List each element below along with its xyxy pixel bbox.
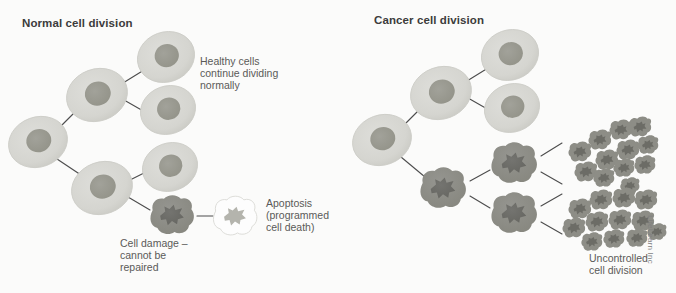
- connector-cancer-cancer-upper-to-cluster-b: [541, 172, 562, 184]
- cell-cancer-daughter-lower: [420, 167, 466, 208]
- cell-normal-apoptotic-cell: [213, 196, 256, 235]
- connector-cancer-parent-to-lower: [401, 157, 425, 177]
- cell-division-diagram: Normal cell division Cancer cell divisio…: [0, 0, 676, 293]
- diagram-canvas: [0, 0, 676, 293]
- caption-cell-damage: Cell damage – cannot be repaired: [120, 238, 188, 273]
- cell-cancer-cancer-cell-lower: [491, 192, 537, 233]
- cluster-upper-cell-6: [616, 140, 639, 160]
- cluster-lower-cell-6: [608, 210, 631, 230]
- caption-apoptosis: Apoptosis (programmed cell death): [266, 198, 329, 233]
- cell-normal-grandchild-1: [130, 24, 202, 91]
- connector-cancer-lower-to-cancer-lower: [470, 196, 490, 208]
- cluster-lower-cell-10: [626, 228, 647, 246]
- cluster-upper-cell-8: [593, 168, 614, 186]
- cluster-lower-cell-3: [634, 190, 657, 210]
- cluster-upper-cell-7: [637, 135, 658, 153]
- connector-cancer-cancer-upper-to-cluster-a: [541, 143, 562, 156]
- cluster-lower-cell-1: [589, 190, 612, 210]
- cell-normal-grandchild-2: [133, 78, 202, 142]
- cluster-lower-cell-2: [612, 188, 635, 208]
- cell-normal-grandchild-3: [135, 135, 204, 199]
- cluster-lower-cell-8: [581, 232, 602, 250]
- cluster-upper-cell-9: [613, 158, 634, 176]
- cell-normal-parent-cell: [1, 108, 74, 176]
- cell-cancer-grandchild-2: [477, 76, 546, 140]
- connector-cancer-lower-to-cancer-upper: [470, 170, 490, 181]
- cluster-upper-cell-10: [634, 155, 655, 173]
- connector-normal-lower-to-damaged: [128, 197, 150, 210]
- cell-cancer-grandchild-1: [474, 22, 546, 89]
- panel-title-normal: Normal cell division: [22, 17, 133, 29]
- cluster-upper-cell-3: [628, 117, 651, 137]
- publisher-credit: LifeLearn Inc: [646, 215, 655, 264]
- cell-cancer-daughter-upper: [403, 58, 479, 128]
- caption-uncontrolled-cell-division: Uncontrolled cell division: [589, 253, 648, 277]
- connector-cancer-cancer-lower-to-cluster-d: [541, 222, 562, 234]
- cell-normal-damaged-cell: [150, 195, 193, 234]
- cluster-lower-cell-4: [562, 218, 585, 238]
- connector-cancer-cancer-lower-to-cluster-c: [541, 194, 562, 206]
- cluster-upper-cell-0: [568, 142, 591, 162]
- cell-cancer-parent-cell: [345, 106, 418, 174]
- cluster-upper-cell-1: [588, 130, 611, 150]
- panel-title-cancer: Cancer cell division: [374, 14, 484, 26]
- cluster-lower-cell-5: [585, 212, 608, 232]
- cluster-lower-cell-9: [603, 229, 624, 247]
- cell-cancer-cancer-cell-upper: [491, 142, 537, 183]
- cell-normal-daughter-lower: [64, 153, 140, 223]
- cluster-upper-cell-2: [609, 120, 632, 140]
- cell-normal-daughter-upper: [59, 60, 135, 130]
- caption-healthy-cells: Healthy cells continue dividing normally: [200, 56, 278, 91]
